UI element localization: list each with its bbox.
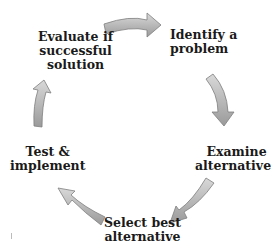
arrow-identify-to-examine [206, 74, 234, 126]
step-examine-line1: Examine [195, 145, 271, 159]
step-test: Test & implement [10, 145, 85, 173]
arrow-select-to-test [58, 188, 105, 225]
step-evaluate-line1: Evaluate if [38, 30, 113, 44]
step-examine: Examine alternatives [195, 145, 271, 173]
step-test-line2: implement [10, 159, 85, 173]
step-test-line1: Test & [10, 145, 85, 159]
step-select-line1: Select best [104, 216, 181, 230]
stray-mark [11, 233, 12, 239]
step-evaluate-line3: solution [38, 58, 113, 72]
step-identify-line1: Identify a [170, 28, 237, 42]
step-evaluate: Evaluate if successful solution [38, 30, 113, 72]
cycle-diagram: Identify a problem Examine alternatives … [0, 0, 271, 249]
step-identify-line2: problem [170, 42, 237, 56]
step-select: Select best alternative [104, 216, 181, 244]
step-evaluate-line2: successful [38, 44, 113, 58]
step-examine-line2: alternatives [195, 159, 271, 173]
step-select-line2: alternative [104, 230, 181, 244]
step-identify: Identify a problem [170, 28, 237, 56]
arrow-test-to-evaluate [33, 80, 51, 127]
